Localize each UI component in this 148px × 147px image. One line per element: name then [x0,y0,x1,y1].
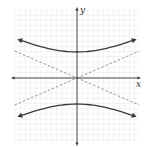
x-axis-label: x [136,79,141,89]
hyperbola-graph: x y [0,0,148,147]
arrow-right-icon [131,113,137,118]
arrow-right-icon [131,38,137,43]
y-axis-label: y [79,5,86,15]
x-axis-arrow-left-icon [11,77,15,80]
y-axis-arrow-up-icon [76,7,79,11]
y-axis-arrow-down-icon [76,143,79,147]
